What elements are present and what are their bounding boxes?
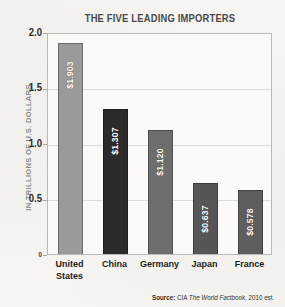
y-axis-tick-label: 1.0 [2, 138, 42, 149]
bar-value-label: $1.120 [156, 148, 166, 175]
bar-value-label: $1.307 [111, 127, 121, 154]
y-axis-tick-label: 1.5 [2, 82, 42, 93]
y-axis-tick-label: 0.5 [2, 193, 42, 204]
bar: $1.307 [103, 109, 128, 254]
x-axis-category-label-line: France [228, 258, 271, 270]
source-work-title: The World Factbook [189, 294, 245, 301]
source-note: Source: CIA The World Factbook, 2010 est… [152, 294, 274, 301]
x-axis-category-label-line: Japan [183, 258, 226, 270]
bar: $0.578 [238, 190, 263, 254]
bar: $1.903 [58, 43, 83, 254]
x-axis-category-label-line: Germany [138, 258, 181, 270]
x-axis-category-label: UnitedStates [48, 258, 91, 281]
x-axis-category-label: Germany [138, 258, 181, 270]
bar: $1.120 [148, 130, 173, 254]
bar-value-label: $0.578 [246, 209, 256, 236]
y-axis-tick-label: 2.0 [2, 27, 42, 38]
x-axis-category-label-line: United [48, 258, 91, 270]
x-axis-category-label: Japan [183, 258, 226, 270]
source-agency: CIA [177, 294, 187, 301]
bar-value-label: $1.903 [66, 61, 76, 88]
x-axis-category-label-line: China [93, 258, 136, 270]
bar-series: $1.903$1.307$1.120$0.637$0.578 [48, 34, 271, 254]
y-axis-tick-label: 0 [2, 251, 42, 258]
bar-value-label: $0.637 [201, 205, 211, 232]
x-axis-category-label-line: States [48, 270, 91, 282]
x-axis-category-label: France [228, 258, 271, 270]
y-axis-tick-mark [43, 255, 47, 256]
chart-title: THE FIVE LEADING IMPORTERS [54, 13, 266, 24]
x-axis-category-labels: UnitedStatesChinaGermanyJapanFrance [47, 258, 272, 292]
bar: $0.637 [193, 183, 218, 254]
source-label: Source: [152, 294, 175, 301]
source-year-note: , 2010 est. [245, 294, 274, 301]
x-axis-category-label: China [93, 258, 136, 270]
plot-area: $1.903$1.307$1.120$0.637$0.578 [47, 33, 272, 255]
